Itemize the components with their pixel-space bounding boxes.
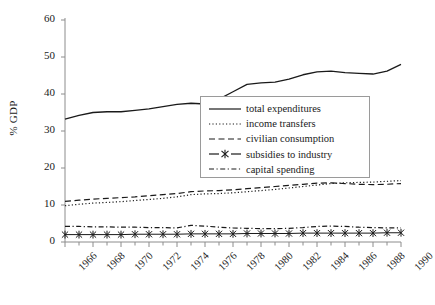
y-axis-tick-label: 50 xyxy=(29,49,55,61)
y-axis-tick-label: 10 xyxy=(29,197,55,209)
legend-label-capital-spending: capital spending xyxy=(246,164,315,175)
y-axis-tick-label: 30 xyxy=(29,123,55,135)
y-axis-tick-label: 20 xyxy=(29,160,55,172)
y-axis-tick-label: 0 xyxy=(29,234,55,246)
legend-swatch-dotted xyxy=(208,118,242,130)
y-axis-tick-label: 40 xyxy=(29,86,55,98)
y-axis-tick-label: 60 xyxy=(29,12,55,24)
legend-item-income-transfers: income transfers xyxy=(208,116,369,131)
legend-item-total-expenditures: total expenditures xyxy=(208,101,369,116)
series-civilian-consumption xyxy=(65,183,401,202)
legend-swatch-dashed xyxy=(208,133,242,145)
legend-label-income-transfers: income transfers xyxy=(246,118,316,129)
legend-item-subsidies-to-industry: subsidies to industry xyxy=(208,147,369,162)
legend-item-capital-spending: capital spending xyxy=(208,162,369,177)
legend-label-subsidies-to-industry: subsidies to industry xyxy=(246,149,332,160)
series-subsidies-to-industry xyxy=(62,229,404,239)
legend-label-total-expenditures: total expenditures xyxy=(246,103,321,114)
series-capital-spending xyxy=(65,225,401,228)
legend-swatch-solid xyxy=(208,103,242,115)
chart-legend: total expenditures income transfers civi… xyxy=(200,96,370,178)
legend-swatch-x-marker xyxy=(208,148,242,160)
legend-label-civilian-consumption: civilian consumption xyxy=(246,133,334,144)
legend-item-civilian-consumption: civilian consumption xyxy=(208,131,369,146)
legend-swatch-dash-dot xyxy=(208,163,242,175)
